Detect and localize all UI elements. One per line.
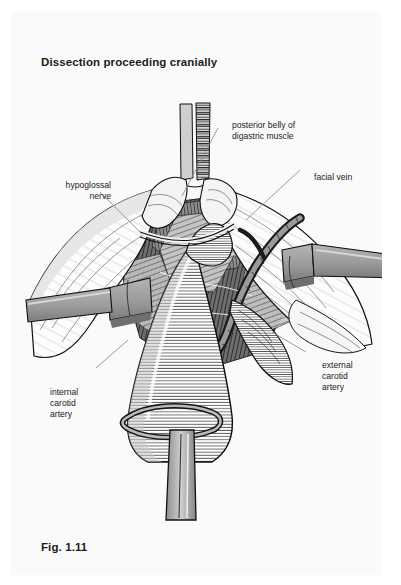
page-title: Dissection proceeding cranially <box>41 56 217 68</box>
dissection-illustration <box>0 0 401 585</box>
callout-hypoglossal-nerve: hypoglossal nerve <box>11 180 111 202</box>
callout-external-carotid-artery: external carotid artery <box>322 360 392 393</box>
digastric-stump-right <box>196 103 210 180</box>
page: Dissection proceeding cranially posterio… <box>0 0 401 585</box>
callout-internal-carotid-artery: internal carotid artery <box>50 387 120 420</box>
callout-posterior-belly-digastric: posterior belly of digastric muscle <box>232 120 342 142</box>
figure-plate: Dissection proceeding cranially posterio… <box>11 12 382 575</box>
right-retractor-blade <box>282 244 314 282</box>
vessel-loop-tail-highlight <box>187 434 188 518</box>
right-retractor-handle <box>312 244 401 278</box>
figure-caption: Fig. 1.11 <box>41 541 87 553</box>
digastric-stump-left <box>180 104 193 180</box>
leader-internal-carotid-artery <box>96 340 128 368</box>
callout-facial-vein: facial vein <box>314 172 394 183</box>
